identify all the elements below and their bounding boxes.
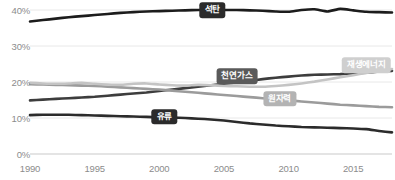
series-label-석탄: 석탄 (200, 2, 225, 18)
series-label-재생에너지: 재생에너지 (342, 58, 391, 74)
y-axis-tick-label: 40% (0, 5, 30, 16)
x-axis-tick-label: 2015 (343, 163, 363, 174)
y-axis-tick-label: 10% (0, 113, 30, 124)
line-chart: 0%10%20%30%40% 199019952000200520102015 … (0, 0, 395, 180)
series-label-원자력: 원자력 (263, 91, 296, 107)
chart-overlay: 0%10%20%30%40% 199019952000200520102015 … (0, 0, 395, 180)
series-label-천연가스: 천연가스 (216, 68, 257, 84)
x-axis-tick-label: 1990 (20, 163, 40, 174)
y-axis-tick-label: 20% (0, 77, 30, 88)
y-axis-tick-label: 0% (0, 149, 30, 160)
series-label-유류: 유류 (152, 109, 177, 125)
x-axis-tick-label: 2000 (149, 163, 169, 174)
x-axis-tick-label: 2010 (278, 163, 298, 174)
x-axis-tick-label: 1995 (84, 163, 104, 174)
x-axis-tick-label: 2005 (214, 163, 234, 174)
y-axis-tick-label: 30% (0, 41, 30, 52)
